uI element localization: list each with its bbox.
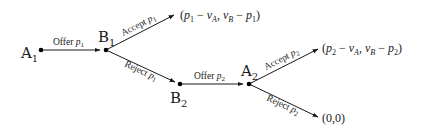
node-a2-label: A2: [240, 62, 258, 82]
edge-label-reject-p1: Reject p1: [122, 59, 159, 85]
node-b1-label: B1: [98, 28, 115, 48]
payoff-accept-p1: (p1 − vA, vB − p1): [180, 8, 260, 24]
node-b2-label: B2: [170, 89, 187, 109]
node-a1-label: A1: [20, 44, 38, 64]
node-b1-dot: [104, 48, 109, 53]
edge-label-offer-p2: Offer p2: [194, 71, 226, 83]
edge-label-reject-p2: Reject p2: [264, 93, 301, 119]
edge-label-accept-p2: Accept p2: [262, 46, 301, 74]
node-b2-dot: [178, 82, 183, 87]
edge-label-offer-p1: Offer p1: [53, 37, 85, 49]
payoff-accept-p2: (p2 − vA, vB − p2): [322, 41, 402, 57]
node-a1-dot: [39, 48, 44, 53]
node-a2-dot: [247, 82, 252, 87]
game-tree-diagram: A1 B1 B2 A2 Offer p1 Accept p1 Reject p1…: [0, 0, 427, 133]
payoff-reject-p2: (0,0): [322, 111, 345, 125]
